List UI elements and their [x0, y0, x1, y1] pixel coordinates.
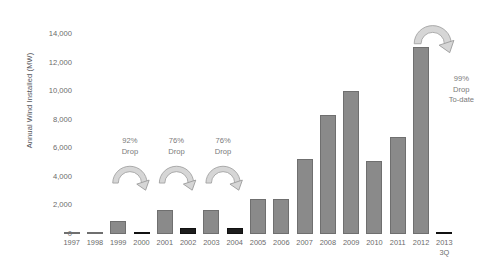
x-axis-tick-year: 2004 — [226, 238, 242, 247]
x-axis-tick-year: 2008 — [320, 238, 336, 247]
x-axis-tick-label: 20133Q — [428, 238, 460, 258]
drop-annotation: 99%DropTo-date — [438, 74, 479, 106]
drop-arrow-icon — [159, 166, 198, 192]
drop-annotation-qualifier: To-date — [438, 95, 479, 106]
bar — [390, 137, 406, 234]
bar — [413, 47, 429, 234]
x-axis-tick-year: 2001 — [157, 238, 173, 247]
drop-annotation-word: Drop — [438, 85, 479, 96]
x-axis-tick-year: 2009 — [343, 238, 359, 247]
drop-annotation-percent: 99% — [438, 74, 479, 85]
bar — [273, 199, 289, 234]
bar — [110, 221, 126, 234]
x-axis-tick-year: 2011 — [390, 238, 406, 247]
x-axis-tick-year: 2003 — [203, 238, 219, 247]
bar — [134, 232, 150, 235]
drop-annotation-percent: 76% — [152, 136, 200, 147]
x-axis-tick-year: 1997 — [63, 238, 79, 247]
x-axis-tick-year: 2005 — [250, 238, 266, 247]
x-axis-tick-year: 2007 — [296, 238, 312, 247]
x-axis-tick-sublabel: 3Q — [428, 248, 460, 258]
plot-area — [60, 20, 456, 234]
bar — [203, 210, 219, 234]
drop-annotation-word: Drop — [152, 147, 200, 158]
x-axis-tick-year: 2010 — [366, 238, 382, 247]
drop-arrow-icon — [113, 166, 152, 192]
bar — [343, 91, 359, 234]
bar — [250, 199, 266, 234]
x-axis-tick-year: 2013 — [436, 238, 452, 247]
bar — [320, 115, 336, 234]
drop-annotation: 76%Drop — [199, 136, 247, 157]
x-axis-tick-year: 2000 — [133, 238, 149, 247]
bar — [180, 228, 196, 234]
drop-annotation-percent: 76% — [199, 136, 247, 147]
bar — [436, 232, 452, 235]
drop-arrow-icon — [206, 166, 245, 192]
x-axis-tick-year: 2002 — [180, 238, 196, 247]
x-axis-tick-year: 1998 — [87, 238, 103, 247]
drop-annotation: 92%Drop — [106, 136, 154, 157]
bar — [87, 232, 103, 235]
bar — [366, 161, 382, 234]
bar — [227, 228, 243, 234]
x-axis-tick-year: 1999 — [110, 238, 126, 247]
drop-annotation-percent: 92% — [106, 136, 154, 147]
bar — [64, 232, 80, 235]
drop-annotation-word: Drop — [106, 147, 154, 158]
bar — [297, 159, 313, 234]
drop-annotation: 76%Drop — [152, 136, 200, 157]
drop-annotation-word: Drop — [199, 147, 247, 158]
x-axis-tick-year: 2006 — [273, 238, 289, 247]
x-axis-tick-year: 2012 — [413, 238, 429, 247]
bar — [157, 210, 173, 234]
